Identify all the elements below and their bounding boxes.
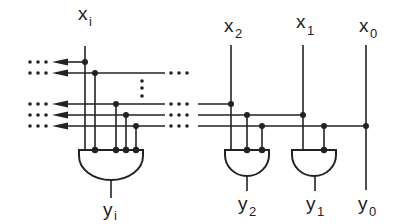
svg-text:2: 2 <box>235 26 242 41</box>
svg-text:x: x <box>224 15 234 36</box>
svg-text:y: y <box>306 193 316 214</box>
label-y0: y 0 <box>358 193 376 219</box>
svg-text:1: 1 <box>307 23 314 38</box>
svg-text:1: 1 <box>317 204 324 219</box>
circuit-diagram: x i x 2 x 1 x 0 <box>0 0 401 224</box>
svg-text:y: y <box>238 193 248 214</box>
label-x0: x 0 <box>359 15 377 41</box>
arrow-left-icon <box>52 101 68 108</box>
arrow-left-icon <box>52 112 68 119</box>
label-y1: y 1 <box>306 193 324 219</box>
and-gate-1 <box>292 147 336 191</box>
arrow-icons <box>52 59 68 130</box>
svg-text:0: 0 <box>369 204 376 219</box>
label-yi: y i <box>103 199 117 223</box>
svg-text:i: i <box>114 208 117 223</box>
svg-text:y: y <box>103 199 113 220</box>
arrow-left-icon <box>52 59 68 66</box>
label-x1: x 1 <box>296 11 314 38</box>
svg-text:y: y <box>358 193 368 214</box>
left-continuation-dots <box>28 60 48 128</box>
svg-text:2: 2 <box>249 204 256 219</box>
label-y2: y 2 <box>238 193 256 219</box>
svg-text:x: x <box>359 15 369 36</box>
arrow-left-icon <box>52 70 68 77</box>
and-gate-2 <box>225 147 269 191</box>
junction-dots <box>82 59 369 129</box>
vertical-ellipsis <box>140 79 144 98</box>
svg-text:i: i <box>89 14 92 29</box>
and-gate-i <box>79 147 143 198</box>
label-x2: x 2 <box>224 15 242 41</box>
middle-continuation-dots <box>169 71 189 128</box>
svg-text:x: x <box>296 11 306 32</box>
svg-text:x: x <box>78 3 88 24</box>
label-xi: x i <box>78 3 92 29</box>
svg-text:0: 0 <box>370 26 377 41</box>
arrow-left-icon <box>52 123 68 130</box>
